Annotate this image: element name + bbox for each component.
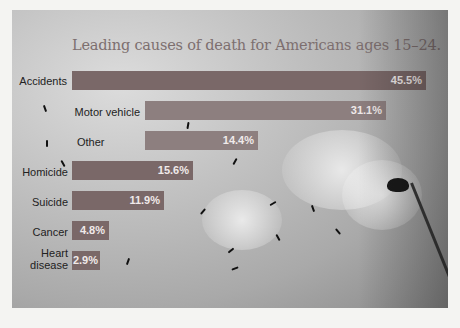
seed-icon xyxy=(275,234,280,241)
seed-icon xyxy=(186,122,189,129)
value-label: 15.6% xyxy=(158,164,189,176)
value-label: 45.5% xyxy=(391,74,422,86)
value-label: 2.9% xyxy=(73,254,98,266)
chart-title: Leading causes of death for Americans ag… xyxy=(72,37,441,53)
category-label-suicide: Suicide xyxy=(12,196,68,208)
seed-icon xyxy=(335,228,341,235)
category-label-accidents: Accidents xyxy=(12,75,67,87)
value-label: 14.4% xyxy=(223,134,254,146)
seed-icon xyxy=(311,205,315,212)
category-label-motor-vehicle: Motor vehicle xyxy=(72,106,140,118)
bar-other: 14.4% xyxy=(145,131,258,150)
seed-icon xyxy=(126,258,130,265)
category-label-other: Other xyxy=(72,136,116,148)
dandelion-fluff xyxy=(342,160,422,230)
seed-icon xyxy=(43,105,47,112)
value-label: 4.8% xyxy=(80,224,105,236)
bar-motor-vehicle: 31.1% xyxy=(145,101,386,120)
seed-icon xyxy=(46,140,48,147)
bar-suicide: 11.9% xyxy=(72,191,164,210)
bar-cancer: 4.8% xyxy=(72,221,109,240)
label-line: Heart xyxy=(12,247,68,259)
seed-icon xyxy=(231,266,238,270)
value-label: 31.1% xyxy=(351,104,382,116)
seed-icon xyxy=(232,158,237,165)
category-label-heart-disease: Heart disease xyxy=(12,247,68,271)
label-line: disease xyxy=(12,259,68,271)
dandelion-head xyxy=(387,178,409,192)
category-label-homicide: Homicide xyxy=(12,166,68,178)
category-label-cancer: Cancer xyxy=(12,226,68,238)
value-label: 11.9% xyxy=(129,194,160,206)
bar-heart-disease: 2.9% xyxy=(72,251,100,270)
bar-accidents: 45.5% xyxy=(72,71,426,90)
dandelion-fluff xyxy=(202,190,282,250)
chart-panel: Leading causes of death for Americans ag… xyxy=(12,10,448,308)
dandelion-stem xyxy=(410,182,448,308)
bar-homicide: 15.6% xyxy=(72,161,193,180)
